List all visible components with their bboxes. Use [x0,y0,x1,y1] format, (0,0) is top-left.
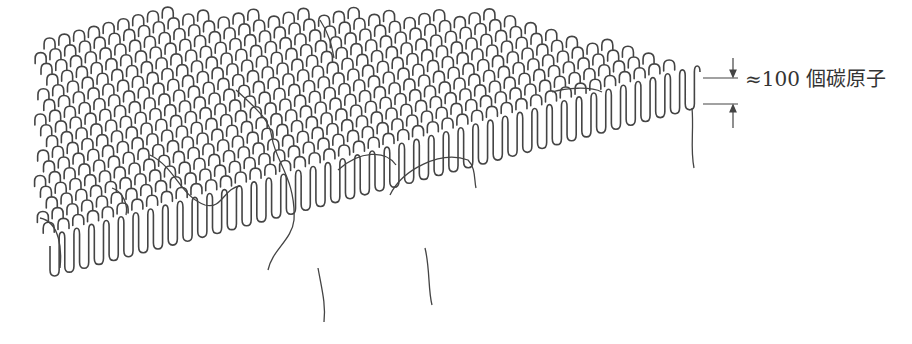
fold-arch [392,57,403,68]
fold-arch [94,37,105,48]
chain-end [318,268,325,322]
fold-arch [519,73,530,84]
fold-arch [67,204,78,215]
fold-arch [410,90,421,101]
fold-arch [112,69,123,80]
fold-arch [401,43,412,54]
fold-arch [47,74,58,85]
fold-arch [79,41,90,52]
fold-arch [38,150,49,161]
fold-arch [73,92,84,103]
fold-arch [52,146,63,157]
fold-arch [50,110,61,121]
fold-arch [525,23,536,34]
fold-arch [85,52,96,63]
fold-arch [599,65,610,76]
fold-arch [188,148,199,159]
fold-arch [436,107,447,118]
fold-arch [351,44,362,55]
fold-arch [192,61,203,72]
fold-arch [97,135,108,146]
fold-arch [407,54,418,65]
fold-arch [259,154,270,165]
fold-arch [448,67,459,78]
fold-arch [489,81,500,92]
fold-arch [475,23,486,34]
fold-arch [324,87,335,98]
thickness-label: ≈100 個碳原子 [745,63,886,92]
chain-end [552,88,602,92]
fold-arch [183,75,194,86]
fold-arch [431,35,442,46]
fold-arch [277,124,288,135]
fold-arch [490,20,501,31]
fold-arch [280,38,291,49]
fold-arch [310,30,321,41]
fold-arch [292,121,303,132]
fold-arch [221,53,232,64]
fold-arch [265,103,276,114]
fold-arch [365,101,376,112]
fold-arch [254,20,265,31]
fold-arch [156,181,167,192]
fold-arch [316,41,327,52]
fold-arch [569,72,580,83]
fold-arch [260,31,271,42]
fold-arch [112,131,123,142]
fold-arch [460,27,471,38]
fold-arch [398,130,409,141]
fold-arch [236,111,247,122]
fold-arch [46,197,57,208]
fold-arch [324,149,335,160]
fold-arch [76,189,87,200]
fold-arch [194,158,205,169]
fold-arch [141,184,152,195]
fold-arch [58,157,69,168]
fold-arch [478,60,489,71]
fold-arch [215,42,226,53]
fold-arch [451,42,462,53]
fold-arch [531,33,542,44]
fold-arch [327,124,338,135]
fold-arch [55,182,66,193]
fold-arch [235,172,246,183]
fold-arch [437,46,448,57]
fold-arch [241,121,252,132]
fold-arch [179,162,190,173]
fold-arch [100,109,111,120]
fold-arch [132,76,143,87]
fold-arch [56,121,67,132]
fold-arch [430,96,441,107]
fold-arch [129,102,140,113]
fold-arch [522,48,533,59]
fold-arch [554,76,565,87]
fold-arch [501,41,512,52]
fold-arch [643,53,654,64]
fold-arch [218,140,229,151]
fold-arch [162,69,173,80]
fold-arch [368,137,379,148]
fold-arch [85,113,96,124]
fold-arch [204,21,215,32]
fold-arch [121,55,132,66]
fold-arch [274,88,285,99]
fold-arch [292,59,303,70]
fold-arch [619,72,630,83]
fold-arch [516,99,527,110]
fold-arch [351,105,362,116]
fold-arch [144,98,155,109]
fold-arch [330,98,341,109]
fold-arch [445,31,456,42]
fold-arch [61,132,72,143]
fold-arch [274,27,285,38]
fold-arch [247,132,258,143]
fold-arch [298,8,309,19]
fold-arch [165,105,176,116]
thickness-dimension [703,58,738,128]
fold-arch [91,62,102,73]
fold-arch [578,58,589,69]
fold-arch [135,174,146,185]
fold-arch [439,82,450,93]
fold-arch [312,66,323,77]
fold-arch [40,186,51,197]
